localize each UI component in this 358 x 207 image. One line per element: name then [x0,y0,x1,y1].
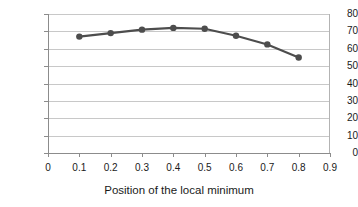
data-point [233,33,239,39]
data-point [201,26,207,32]
data-point [170,25,176,31]
series-markers-effort [76,25,302,61]
data-point [264,41,270,47]
data-point [139,26,145,32]
data-point [76,33,82,39]
data-series-layer [0,0,358,207]
chart-figure: Effort 80 70 60 50 40 30 20 10 0 0 [0,0,358,207]
x-axis-title: Position of the local minimum [0,184,358,196]
data-point [107,30,113,36]
data-point [295,54,301,60]
